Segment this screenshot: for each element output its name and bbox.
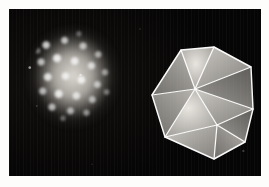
icosahedron-model bbox=[147, 37, 261, 169]
figure-root bbox=[0, 0, 269, 187]
virus-capsid-particle bbox=[26, 26, 120, 130]
icosahedron-faces bbox=[152, 47, 253, 159]
capsomere-granular-texture bbox=[31, 30, 115, 124]
icosahedron-svg bbox=[147, 37, 261, 169]
photographic-plate bbox=[9, 9, 261, 176]
